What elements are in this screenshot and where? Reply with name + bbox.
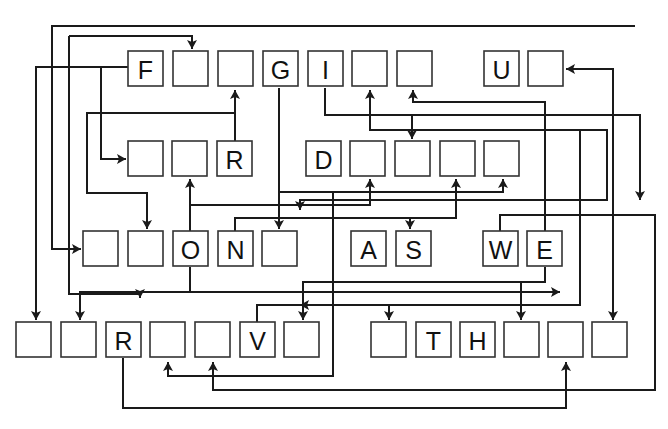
blank-cell[interactable]: [395, 141, 430, 176]
cell-letter: R: [114, 327, 132, 355]
cell-letter: T: [426, 327, 441, 355]
cell-box: [371, 322, 406, 357]
cell-box: [83, 231, 118, 266]
connection-wire: [123, 358, 566, 408]
cell-letter: A: [360, 236, 377, 264]
letter-cell[interactable]: R: [217, 141, 252, 176]
cell-box: [195, 322, 230, 357]
cell-box: [128, 231, 163, 266]
letter-cell[interactable]: E: [527, 231, 562, 266]
cell-box: [395, 141, 430, 176]
cell-letter: W: [489, 236, 513, 264]
connection-wire: [370, 90, 580, 130]
cell-box: [592, 322, 627, 357]
blank-cell[interactable]: [484, 141, 519, 176]
blank-cell[interactable]: [350, 141, 385, 176]
blank-cell[interactable]: [397, 51, 432, 86]
cell-box: [284, 322, 319, 357]
cell-letter: F: [138, 56, 153, 84]
cell-box: [350, 141, 385, 176]
letter-cell[interactable]: V: [240, 322, 275, 357]
connection-wire: [257, 305, 389, 322]
cell-letter: S: [405, 236, 422, 264]
letter-cell[interactable]: H: [460, 322, 495, 357]
blank-cell[interactable]: [352, 51, 387, 86]
connection-wire: [303, 282, 521, 320]
blank-cell[interactable]: [284, 322, 319, 357]
blank-cell[interactable]: [528, 51, 563, 86]
letter-cell[interactable]: A: [351, 231, 386, 266]
letter-cell[interactable]: U: [484, 51, 519, 86]
cell-box: [173, 51, 208, 86]
letter-cell[interactable]: S: [396, 231, 431, 266]
letter-cell[interactable]: R: [106, 322, 141, 357]
connection-wire: [69, 36, 192, 49]
cell-letter: N: [226, 236, 244, 264]
cell-box: [61, 322, 96, 357]
blank-cell[interactable]: [592, 322, 627, 357]
blank-cell[interactable]: [172, 141, 207, 176]
blank-cell[interactable]: [16, 322, 51, 357]
cell-box: [504, 322, 539, 357]
blank-cell[interactable]: [504, 322, 539, 357]
letter-cell[interactable]: W: [483, 231, 518, 266]
cell-box: [128, 141, 163, 176]
cell-box: [397, 51, 432, 86]
cell-letter: E: [536, 236, 553, 264]
cell-box: [548, 322, 583, 357]
blank-cell[interactable]: [195, 322, 230, 357]
cell-letter: D: [314, 146, 332, 174]
cell-box: [262, 231, 297, 266]
connection-wire: [566, 69, 613, 200]
cell-box: [440, 141, 475, 176]
blank-cell[interactable]: [371, 322, 406, 357]
letter-cell[interactable]: D: [306, 141, 341, 176]
cell-letter: V: [249, 327, 266, 355]
cell-letter: G: [271, 56, 290, 84]
cell-box: [150, 322, 185, 357]
letter-cell[interactable]: G: [263, 51, 298, 86]
cell-letter: R: [225, 146, 243, 174]
blank-cell[interactable]: [218, 51, 253, 86]
blank-cell[interactable]: [128, 141, 163, 176]
blank-cell[interactable]: [440, 141, 475, 176]
blank-cell[interactable]: [548, 322, 583, 357]
letter-cell[interactable]: T: [416, 322, 451, 357]
letter-cell[interactable]: N: [218, 231, 253, 266]
blank-cell[interactable]: [83, 231, 118, 266]
cell-box: [172, 141, 207, 176]
cell-letter: I: [322, 56, 329, 84]
cell-box: [352, 51, 387, 86]
cell-letter: U: [492, 56, 510, 84]
cell-box: [528, 51, 563, 86]
connection-wire: [413, 90, 545, 231]
letter-cell[interactable]: I: [308, 51, 343, 86]
cell-box: [218, 51, 253, 86]
blank-cell[interactable]: [61, 322, 96, 357]
blank-cell[interactable]: [128, 231, 163, 266]
blank-cell[interactable]: [150, 322, 185, 357]
cell-box: [16, 322, 51, 357]
blank-cell[interactable]: [173, 51, 208, 86]
blank-cell[interactable]: [262, 231, 297, 266]
letter-puzzle-diagram: FGIURDONASWERVTH: [0, 0, 668, 429]
cell-letter: H: [468, 327, 486, 355]
connection-wire: [279, 179, 503, 192]
letter-cell[interactable]: F: [128, 51, 163, 86]
letter-cell[interactable]: O: [173, 231, 208, 266]
cell-box: [484, 141, 519, 176]
cell-letter: O: [181, 236, 200, 264]
